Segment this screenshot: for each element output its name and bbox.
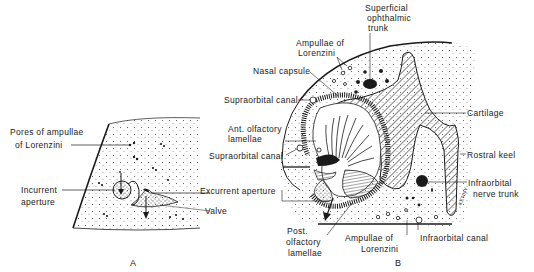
label-supraorbital-canal-top: Supraorbital canal	[224, 95, 298, 105]
panel-a-letter: A	[130, 258, 136, 268]
label-superficial-line2: ophthalmic	[367, 13, 411, 23]
label-supraorbital-canal-bottom: Supraorbital canal	[209, 151, 283, 161]
label-pores-line2: of Lorenzini	[15, 140, 63, 150]
label-post-olfactory-line1: Post.	[287, 226, 308, 236]
label-post-olfactory-line3: lamellae	[288, 248, 322, 258]
label-ampullae-bottom-line1: Ampullae of	[345, 233, 393, 243]
label-ampullae-top-line2: Lorenzini	[298, 48, 335, 58]
label-valve: Valve	[205, 206, 227, 216]
label-pores-line1: Pores of ampullae	[10, 127, 84, 137]
label-superficial-line3: trunk	[368, 23, 388, 33]
label-cartilage: Cartilage	[467, 108, 504, 118]
label-ampullae-bottom-line2: Lorenzini	[361, 244, 398, 254]
label-rostral-keel: Rostral keel	[467, 150, 515, 160]
panel-b-letter: B	[395, 258, 401, 268]
label-infraorbital-canal: Infraorbital canal	[420, 233, 488, 243]
label-nasal-capsule: Nasal capsule	[253, 66, 310, 76]
label-incurrent-line1: Incurrent	[21, 185, 57, 195]
label-infraorbital-nerve-line1: Infraorbital	[468, 178, 512, 188]
label-ant-olfactory-line1: Ant. olfactory	[228, 124, 282, 134]
label-infraorbital-nerve-line2: nerve trunk	[473, 189, 519, 199]
label-excurrent-aperture: Excurrent aperture	[200, 186, 276, 196]
label-ant-olfactory-line2: lamellae	[228, 134, 262, 144]
panel-b-drawing	[280, 33, 475, 235]
label-superficial-line1: Superficial	[365, 3, 408, 13]
label-incurrent-line2: aperture	[21, 197, 55, 207]
label-ampullae-top-line1: Ampullae of	[296, 38, 344, 48]
panel-a-drawing	[62, 118, 210, 230]
label-post-olfactory-line2: olfactory	[286, 237, 321, 247]
